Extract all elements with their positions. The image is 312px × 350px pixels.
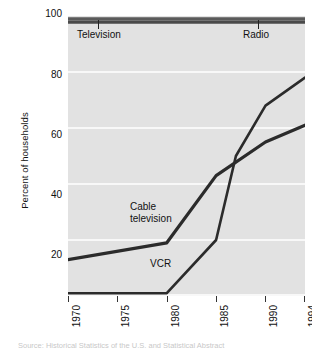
gridlines: [68, 72, 305, 295]
series-annotation-cable-television: Cable television: [130, 201, 172, 224]
series-annotation-vcr: VCR: [150, 258, 171, 270]
radio-leader-line: [258, 20, 259, 29]
x-tick-label-1990: 1990: [269, 305, 279, 327]
x-tick-mark-1994: [304, 296, 305, 302]
series-annotation-radio: Radio: [243, 29, 269, 41]
chart-figure: Percent of households 100 80 60 40 20: [0, 0, 312, 350]
y-tick-label-80: 80: [2, 70, 62, 80]
y-axis-tick-labels: 100 80 60 40 20: [0, 0, 62, 350]
y-tick-label-60: 60: [2, 130, 62, 140]
y-tick-label-20: 20: [2, 250, 62, 260]
x-tick-label-1994: 1994: [308, 305, 312, 327]
television-leader-line: [98, 20, 99, 29]
x-tick-label-1975: 1975: [121, 305, 131, 327]
series-annotation-television: Television: [77, 29, 121, 41]
x-tick-mark-1980: [167, 296, 168, 302]
x-tick-mark-1985: [216, 296, 217, 302]
x-tick-mark-1970: [68, 296, 69, 302]
x-tick-label-1985: 1985: [220, 305, 230, 327]
x-tick-label-1970: 1970: [72, 305, 82, 327]
x-tick-label-1980: 1980: [171, 305, 181, 327]
source-note: Source: Historical Statistics of the U.S…: [18, 341, 224, 350]
series-line-vcr: [68, 78, 305, 294]
x-tick-mark-1975: [117, 296, 118, 302]
y-tick-label-40: 40: [2, 190, 62, 200]
y-tick-label-100: 100: [2, 9, 62, 19]
plot-svg: [68, 16, 305, 296]
x-tick-mark-1990: [265, 296, 266, 302]
plot-area: Cable television VCR: [68, 16, 305, 296]
